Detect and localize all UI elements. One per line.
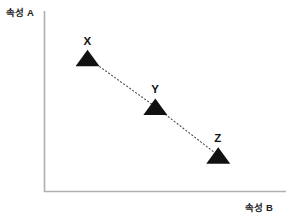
data-point-label-x: X bbox=[84, 36, 92, 48]
chart-figure: 속성 A 속성 B X Y Z bbox=[0, 0, 291, 223]
y-axis-label: 속성 A bbox=[6, 8, 34, 18]
data-point-label-z: Z bbox=[214, 133, 221, 145]
data-point-label-y: Y bbox=[151, 84, 159, 96]
x-axis-label: 속성 B bbox=[245, 203, 273, 213]
chart-canvas bbox=[0, 0, 291, 223]
data-point-marker-y[interactable] bbox=[143, 98, 167, 115]
data-point-marker-z[interactable] bbox=[206, 147, 230, 164]
data-point-marker-x[interactable] bbox=[76, 50, 100, 67]
